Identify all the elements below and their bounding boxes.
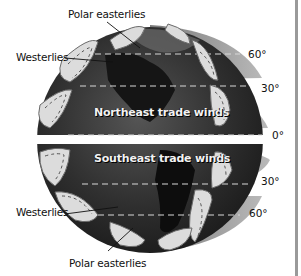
label-southeast-trade-winds: Southeast trade winds — [94, 152, 230, 165]
latitude-30-north: 30° — [261, 82, 280, 94]
frame-border — [295, 0, 298, 276]
latitude-equator: 0° — [272, 129, 284, 141]
label-westerlies-north: Westerlies — [16, 51, 68, 63]
latitude-30-south: 30° — [261, 175, 280, 187]
label-polar-easterlies-north: Polar easterlies — [68, 8, 145, 20]
label-polar-easterlies-south: Polar easterlies — [69, 257, 146, 269]
equator-gap — [25, 135, 280, 144]
latitude-60-south: 60° — [249, 207, 268, 219]
label-northeast-trade-winds: Northeast trade winds — [94, 106, 229, 119]
label-westerlies-south: Westerlies — [16, 206, 68, 218]
wind-belts-diagram: Polar easterlies Westerlies Northeast tr… — [0, 0, 301, 276]
latitude-60-north: 60° — [248, 48, 267, 60]
globe-illustration — [0, 0, 301, 276]
